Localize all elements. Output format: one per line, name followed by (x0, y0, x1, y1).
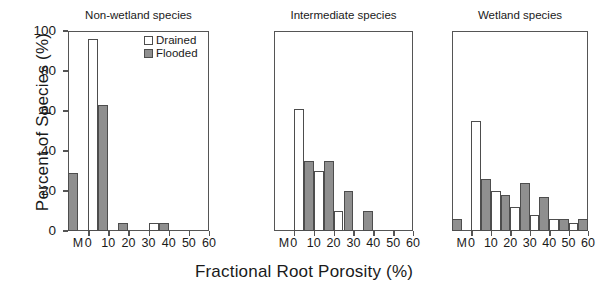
panel-2: Intermediate speciesM0102030405060 (274, 31, 413, 231)
y-tick-label: 60 (26, 103, 56, 118)
bar-flooded-35-40 (539, 197, 549, 231)
bar-flooded-5-10 (481, 179, 491, 231)
bar-drained-0-5 (294, 109, 304, 231)
y-tick-mark (63, 30, 68, 31)
legend-label: Drained (156, 34, 196, 47)
bar-drained-0-5 (471, 121, 481, 231)
bar-flooded-5-10 (98, 105, 108, 231)
figure: Percent of Species (%) Fractional Root P… (0, 0, 608, 297)
bar-flooded-5-10 (304, 161, 314, 231)
bar-drained-30-35 (530, 215, 540, 231)
bar-layer (452, 31, 588, 231)
legend-label: Flooded (156, 47, 198, 60)
bar-layer (68, 31, 209, 231)
bar-flooded-15-20 (118, 223, 128, 231)
bar-flooded-35-40 (363, 211, 373, 231)
bar-flooded-25-30 (344, 191, 354, 231)
bar-flooded-25-30 (520, 183, 530, 231)
panel-title: Wetland species (452, 9, 588, 21)
y-tick-mark (63, 150, 68, 151)
y-tick-mark (63, 70, 68, 71)
panel-3: Wetland speciesM0102030405060 (452, 31, 588, 231)
bar-drained-50-55 (569, 223, 579, 231)
legend-item-drained: Drained (144, 34, 198, 47)
bar-flooded-45-50 (559, 219, 569, 231)
y-tick-label: 40 (26, 143, 56, 158)
y-tick-mark (63, 190, 68, 191)
bar-drained-20-25 (510, 207, 520, 231)
y-axis-label: Percent of Species (%) (33, 7, 53, 237)
y-tick-mark (63, 230, 68, 231)
bar-drained-10-15 (314, 171, 324, 231)
legend: DrainedFlooded (144, 34, 198, 60)
panel-title: Non-wetland species (68, 9, 209, 21)
bar-layer (274, 31, 413, 231)
bar-drained-0-5 (88, 39, 98, 231)
legend-item-flooded: Flooded (144, 47, 198, 60)
y-tick-mark (63, 110, 68, 111)
legend-swatch-icon (144, 49, 153, 58)
x-tick-label: 60 (400, 236, 426, 250)
bar-flooded-M (452, 219, 462, 231)
bar-flooded-35-40 (159, 223, 169, 231)
bar-flooded-15-20 (501, 195, 511, 231)
legend-swatch-icon (144, 36, 153, 45)
x-axis-label: Fractional Root Porosity (%) (0, 262, 608, 282)
bar-drained-10-15 (491, 191, 501, 231)
y-tick-label: 0 (26, 223, 56, 238)
bar-drained-30-35 (149, 223, 159, 231)
y-tick-label: 100 (26, 23, 56, 38)
bar-flooded-15-20 (324, 161, 334, 231)
x-tick-label: 60 (575, 236, 601, 250)
bar-drained-20-25 (334, 211, 344, 231)
bar-flooded-M (68, 173, 78, 231)
bar-flooded-55-60 (578, 219, 588, 231)
y-tick-label: 20 (26, 183, 56, 198)
bar-drained-40-45 (549, 219, 559, 231)
y-tick-label: 80 (26, 63, 56, 78)
panel-1: Non-wetland speciesM01020304050600204060… (68, 31, 209, 231)
panel-title: Intermediate species (274, 9, 413, 21)
x-tick-label: 60 (196, 236, 222, 250)
